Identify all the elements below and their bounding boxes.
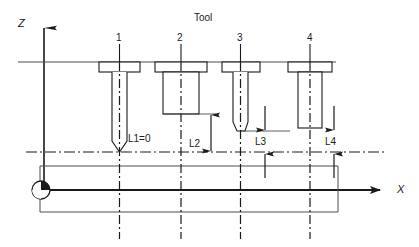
table-outline <box>40 166 338 212</box>
tool-2-number: 2 <box>177 33 183 43</box>
origin-filled-quadrant <box>41 181 50 190</box>
technical-drawing <box>0 0 419 247</box>
tool-header-label: Tool <box>194 13 212 23</box>
x-axis-label: X <box>397 184 404 195</box>
z-axis-label: Z <box>18 18 25 29</box>
tool-4-number: 4 <box>307 33 313 43</box>
diagram-canvas: Z X Tool 1 2 3 4 L1=0 L2 L3 L4 <box>0 0 419 247</box>
dimension-label-l2: L2 <box>189 139 200 149</box>
dimension-label-l3: L3 <box>255 137 266 147</box>
dimension-label-l1: L1=0 <box>128 134 151 144</box>
origin-filled-quadrant-2 <box>32 190 41 199</box>
tool-1-number: 1 <box>116 33 122 43</box>
tool-3-number: 3 <box>237 33 243 43</box>
dimension-label-l4: L4 <box>325 137 336 147</box>
